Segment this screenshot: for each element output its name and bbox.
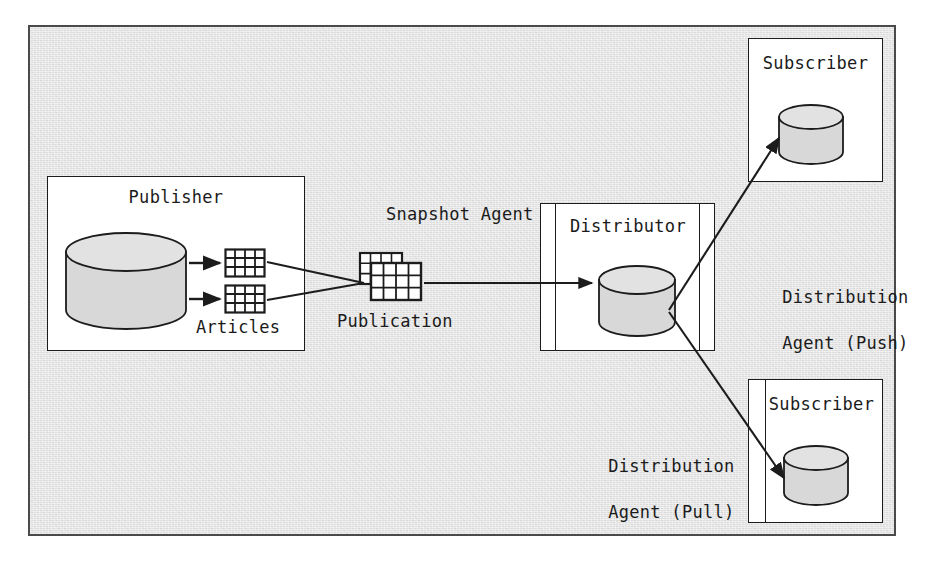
distribution-agent-push-line2: Agent (Push) [782, 333, 908, 353]
publication-stacked-table-icon [358, 251, 424, 303]
distribution-agent-pull-line2: Agent (Pull) [608, 502, 734, 522]
distribution-agent-push-line1: Distribution [782, 287, 908, 307]
article-table-icon-1 [224, 248, 266, 278]
subscriber-pull-database-cylinder [782, 445, 850, 507]
distribution-agent-pull-line1: Distribution [608, 456, 734, 476]
publisher-database-cylinder [64, 232, 188, 330]
articles-label: Articles [196, 316, 280, 339]
distribution-agent-push-label: Distribution Agent (Push) [740, 263, 909, 378]
subscriber-pull-label: Subscriber [760, 393, 883, 416]
publication-label: Publication [337, 310, 453, 333]
article-table-icon-2 [224, 284, 266, 314]
distributor-label: Distributor [552, 215, 704, 238]
publisher-label: Publisher [47, 186, 305, 209]
snapshot-agent-label: Snapshot Agent [386, 203, 534, 226]
distribution-agent-pull-label: Distribution Agent (Pull) [566, 432, 735, 547]
subscriber-push-database-cylinder [777, 104, 845, 166]
diagram-canvas: Publisher Articles [0, 0, 928, 563]
subscriber-push-label: Subscriber [748, 52, 883, 75]
distributor-database-cylinder [597, 265, 677, 337]
